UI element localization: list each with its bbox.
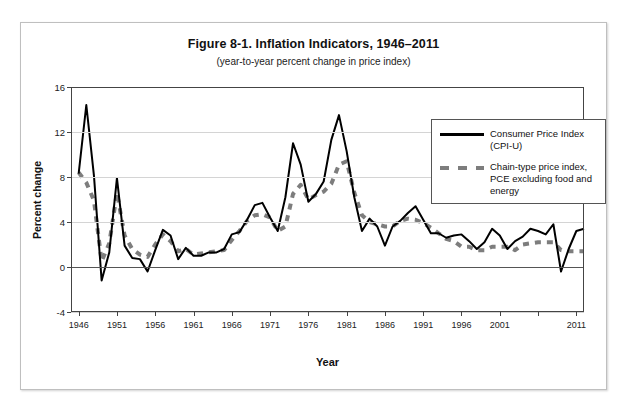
x-tick-label: 1951 (107, 320, 127, 330)
y-tick-label: 8 (60, 172, 65, 183)
chart-legend: Consumer Price Index (CPI-U) Chain-type … (431, 119, 606, 204)
x-tick-mark (308, 312, 309, 316)
x-tick-label: 1996 (451, 320, 471, 330)
x-tick-mark (117, 312, 118, 316)
legend-swatch-solid-line (440, 133, 484, 136)
y-tick-label: -4 (57, 307, 65, 318)
legend-swatch-dashed-line (440, 166, 484, 170)
x-axis-title: Year (71, 356, 584, 368)
legend-label-pce: Chain-type price index, PCE excluding fo… (490, 161, 599, 197)
y-tick-label: 12 (54, 127, 65, 138)
x-tick-label: 1961 (183, 320, 203, 330)
y-tick-label: 4 (60, 217, 65, 228)
chart-subtitle: (year-to-year percent change in price in… (21, 56, 606, 67)
x-tick-mark (423, 312, 424, 316)
legend-label-cpi: Consumer Price Index (CPI-U) (490, 128, 599, 152)
x-tick-mark (461, 312, 462, 316)
x-tick-label: 2011 (567, 320, 586, 330)
legend-item-pce: Chain-type price index, PCE excluding fo… (440, 161, 599, 197)
x-tick-label: 1986 (375, 320, 395, 330)
x-tick-mark (500, 312, 501, 316)
x-tick-label: 2001 (490, 320, 510, 330)
x-tick-label: 1981 (337, 320, 357, 330)
x-tick-mark (194, 312, 195, 316)
x-tick-mark (538, 312, 539, 316)
x-tick-label: 1991 (413, 320, 433, 330)
y-tick-mark (67, 312, 71, 313)
x-tick-label: 1976 (298, 320, 318, 330)
x-tick-label: 1966 (222, 320, 242, 330)
y-tick-label: 16 (54, 82, 65, 93)
x-tick-mark (347, 312, 348, 316)
x-tick-mark (79, 312, 80, 316)
x-tick-mark (576, 312, 577, 316)
figure-frame: Figure 8-1. Inflation Indicators, 1946–2… (20, 22, 607, 390)
x-tick-mark (155, 312, 156, 316)
x-tick-label: 1956 (145, 320, 165, 330)
y-axis-title-text: Percent change (31, 160, 43, 238)
x-tick-mark (270, 312, 271, 316)
gridline (71, 312, 584, 313)
x-tick-mark (385, 312, 386, 316)
x-tick-mark (232, 312, 233, 316)
x-tick-label: 1946 (69, 320, 89, 330)
chart-title: Figure 8-1. Inflation Indicators, 1946–2… (21, 37, 606, 51)
y-tick-label: 0 (60, 262, 65, 273)
legend-item-cpi: Consumer Price Index (CPI-U) (440, 128, 599, 152)
x-tick-label: 1971 (260, 320, 280, 330)
y-axis-title: Percent change (29, 87, 45, 312)
